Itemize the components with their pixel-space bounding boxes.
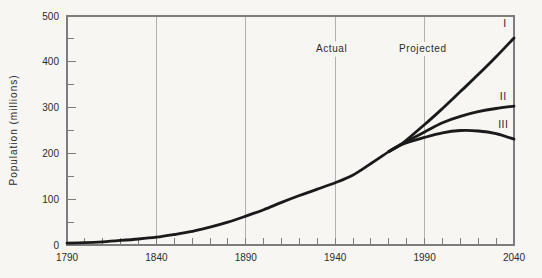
series-label-series-iii: III — [498, 118, 508, 130]
plot-border — [67, 16, 514, 245]
curve-series-ii — [389, 106, 514, 151]
y-tick-label-500: 500 — [42, 11, 59, 22]
x-tick-label-1790: 1790 — [56, 252, 79, 263]
x-tick-label-1940: 1940 — [324, 252, 347, 263]
x-tick-label-2040: 2040 — [503, 252, 526, 263]
curve-actual — [67, 144, 401, 243]
curves — [67, 38, 514, 243]
x-tick-label-1890: 1890 — [235, 252, 258, 263]
y-tick-label-0: 0 — [53, 240, 59, 251]
x-tick-label-1990: 1990 — [413, 252, 436, 263]
series-label-series-ii: II — [500, 90, 507, 102]
y-tick-label-300: 300 — [42, 102, 59, 113]
y-tick-label-100: 100 — [42, 194, 59, 205]
ticks — [67, 39, 496, 245]
gridlines — [156, 16, 424, 245]
y-axis-title: Population (millions) — [8, 74, 19, 185]
x-tick-labels: 179018401890194019902040 — [56, 252, 526, 263]
y-tick-labels: 0100200300400500 — [42, 11, 59, 251]
y-tick-label-400: 400 — [42, 56, 59, 67]
population-projection-chart: 1790184018901940199020400100200300400500… — [0, 0, 542, 278]
series-label-series-i: I — [503, 17, 506, 29]
annotation-projected: Projected — [399, 43, 447, 54]
chart-canvas: 1790184018901940199020400100200300400500… — [0, 0, 542, 278]
y-tick-label-200: 200 — [42, 148, 59, 159]
x-tick-label-1840: 1840 — [145, 252, 168, 263]
annotation-actual: Actual — [316, 43, 347, 54]
